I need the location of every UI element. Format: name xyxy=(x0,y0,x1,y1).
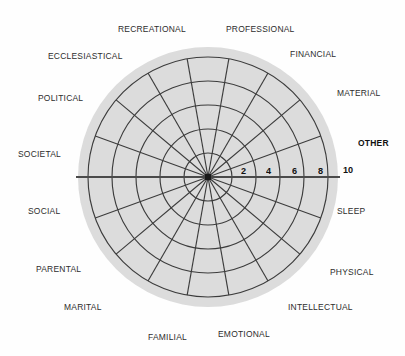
radial-tick-6: 6 xyxy=(292,166,297,176)
radial-tick-8: 8 xyxy=(318,166,323,176)
axis-label-political: POLITICAL xyxy=(38,94,83,103)
axis-label-social: SOCIAL xyxy=(28,207,60,216)
center-hub-marker xyxy=(205,174,211,180)
axis-label-societal: SOCIETAL xyxy=(18,150,61,159)
axis-label-material: MATERIAL xyxy=(337,89,380,98)
axis-label-marital: MARITAL xyxy=(64,303,102,312)
axis-label-financial: FINANCIAL xyxy=(290,50,336,59)
axis-label-parental: PARENTAL xyxy=(36,265,81,274)
radial-tick-4: 4 xyxy=(266,166,271,176)
axis-label-emotional: EMOTIONAL xyxy=(218,330,270,339)
axis-label-intellectual: INTELLECTUAL xyxy=(288,303,353,312)
axis-label-recreational: RECREATIONAL xyxy=(118,25,186,34)
axis-label-other: OTHER xyxy=(358,139,389,148)
radial-tick-10: 10 xyxy=(343,165,353,175)
polar-chart: OTHERMATERIALFINANCIALPROFESSIONALRECREA… xyxy=(0,0,405,356)
axis-label-physical: PHYSICAL xyxy=(330,268,374,277)
radial-tick-2: 2 xyxy=(241,166,246,176)
axis-label-sleep: SLEEP xyxy=(337,207,365,216)
axis-label-ecclesiastical: ECCLESIASTICAL xyxy=(48,52,123,61)
axis-label-professional: PROFESSIONAL xyxy=(226,25,295,34)
axis-label-familial: FAMILIAL xyxy=(148,333,187,342)
